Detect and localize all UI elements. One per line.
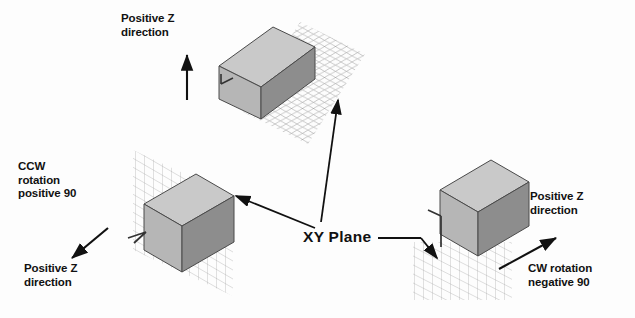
xy-plane-label: XY Plane bbox=[303, 228, 371, 246]
label-left-positive-z: Positive Z direction bbox=[24, 262, 77, 289]
leader-to-left-plane bbox=[236, 196, 315, 228]
cube-right-axis-marker bbox=[428, 210, 441, 247]
label-left-ccw-rotation: CCW rotation positive 90 bbox=[18, 160, 76, 201]
cube-left-group bbox=[72, 150, 234, 296]
diagram-canvas: Positive Z direction CCW rotation positi… bbox=[0, 0, 635, 318]
cube-left-positive-z-arrow bbox=[72, 228, 108, 258]
label-right-cw-rotation: CW rotation negative 90 bbox=[528, 262, 592, 289]
label-top-positive-z: Positive Z direction bbox=[121, 12, 174, 39]
label-right-positive-z: Positive Z direction bbox=[530, 190, 583, 217]
cube-right-body bbox=[440, 160, 529, 256]
cube-right-grid-plane bbox=[413, 242, 512, 300]
cube-top-group bbox=[187, 22, 365, 144]
